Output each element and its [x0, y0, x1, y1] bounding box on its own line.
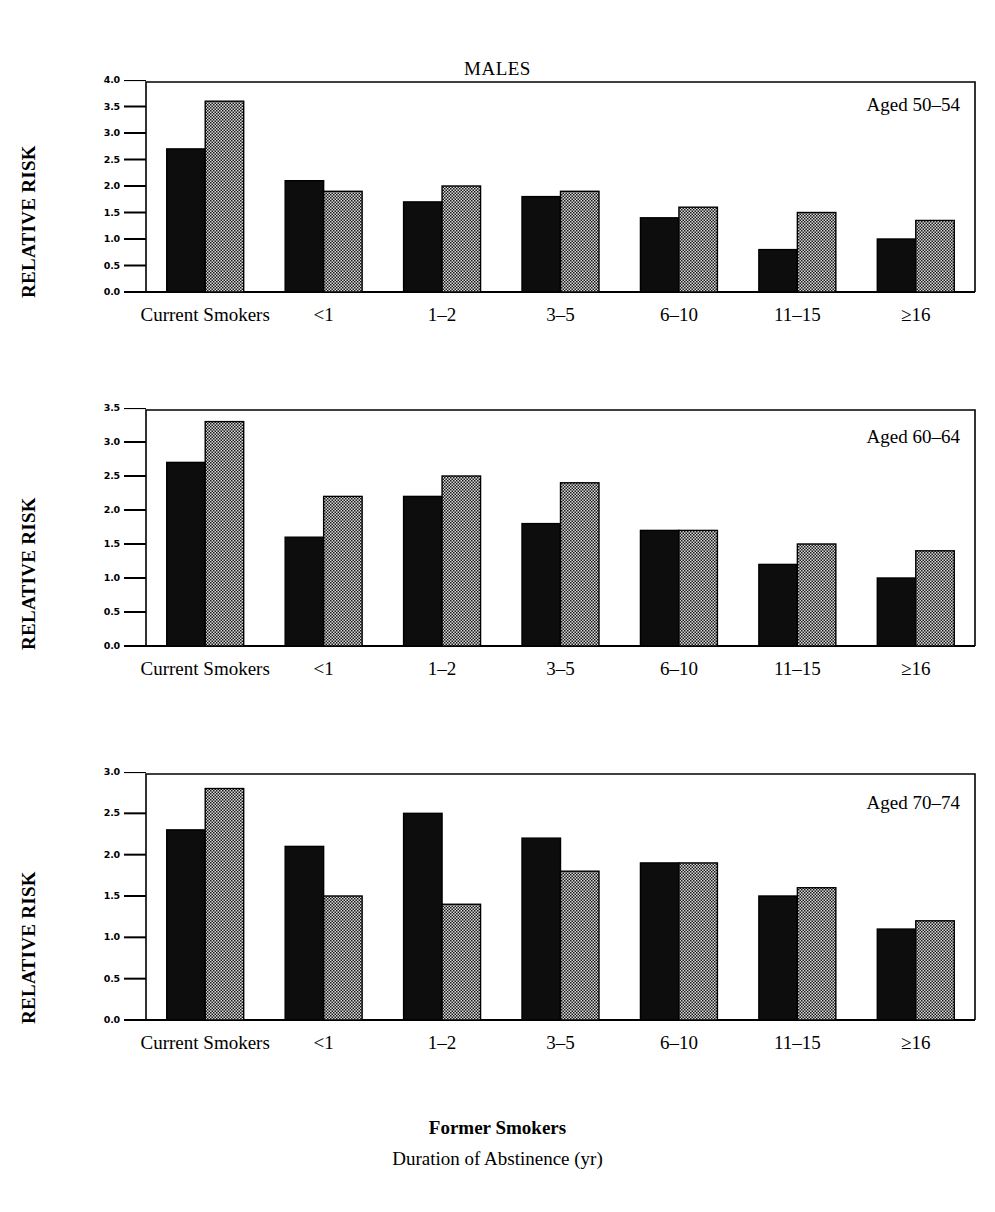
- y-axis-tick-label: 4.0: [80, 74, 120, 85]
- y-axis-tick-label: 1.0: [80, 931, 120, 942]
- bar-series-1: [640, 530, 678, 646]
- figure-page: MALES RELATIVE RISK 4.03.53.02.52.01.51.…: [0, 0, 995, 1212]
- bar-series-1: [404, 496, 442, 646]
- y-axis-tick-label: 3.0: [80, 436, 120, 447]
- bar-series-1: [877, 578, 915, 646]
- bar-series-2: [679, 207, 717, 292]
- x-axis-category-label: ≥16: [826, 658, 995, 680]
- bar-series-2: [916, 921, 954, 1020]
- y-axis-tick-label: 3.0: [80, 127, 120, 138]
- chart-svg: [0, 408, 995, 676]
- bar-series-1: [640, 863, 678, 1020]
- bar-series-2: [561, 191, 599, 292]
- panel-age-label: Aged 60–64: [800, 426, 960, 448]
- bar-series-1: [877, 239, 915, 292]
- panel-age-label: Aged 50–54: [800, 94, 960, 116]
- y-axis-tick-label: 1.5: [80, 207, 120, 218]
- y-axis-tick-label: 1.0: [80, 572, 120, 583]
- y-axis-tick-label: 3.5: [80, 101, 120, 112]
- bar-series-1: [640, 218, 678, 292]
- y-axis-tick-label: 2.5: [80, 807, 120, 818]
- bar-series-1: [759, 896, 797, 1020]
- bar-series-1: [167, 830, 205, 1020]
- y-axis-tick-label: 0.0: [80, 1014, 120, 1025]
- bar-series-2: [561, 871, 599, 1020]
- plot-area-panel-3: 3.02.52.01.51.00.50.0Current Smokers<11–…: [0, 772, 995, 1050]
- bar-series-2: [324, 896, 362, 1020]
- bar-series-1: [404, 202, 442, 292]
- chart-panel-aged-50-54: RELATIVE RISK 4.03.53.02.52.01.51.00.50.…: [0, 80, 995, 330]
- bar-series-2: [916, 551, 954, 646]
- y-axis-tick-label: 0.5: [80, 973, 120, 984]
- y-axis-tick-label: 2.5: [80, 470, 120, 481]
- plot-area-panel-2: 3.53.02.52.01.51.00.50.0Current Smokers<…: [0, 408, 995, 676]
- panel-age-label: Aged 70–74: [800, 792, 960, 814]
- y-axis-tick-label: 2.0: [80, 849, 120, 860]
- y-axis-tick-label: 3.0: [80, 766, 120, 777]
- bar-series-1: [285, 537, 323, 646]
- figure-title: MALES: [0, 58, 995, 80]
- bar-series-2: [324, 191, 362, 292]
- bar-series-2: [442, 186, 480, 292]
- bar-series-2: [916, 220, 954, 292]
- bar-series-2: [797, 544, 835, 646]
- bar-series-1: [877, 929, 915, 1020]
- x-axis-category-label: ≥16: [826, 1032, 995, 1054]
- bar-series-1: [285, 181, 323, 292]
- y-axis-tick-label: 2.0: [80, 180, 120, 191]
- y-axis-tick-label: 0.0: [80, 286, 120, 297]
- bar-series-1: [167, 149, 205, 292]
- y-axis-tick-label: 1.5: [80, 890, 120, 901]
- bar-series-1: [522, 197, 560, 292]
- x-axis-category-label: ≥16: [826, 304, 995, 326]
- x-axis-title: Duration of Abstinence (yr): [0, 1148, 995, 1170]
- y-axis-tick-label: 3.5: [80, 402, 120, 413]
- bar-series-2: [205, 101, 243, 292]
- y-axis-tick-label: 0.0: [80, 640, 120, 651]
- y-axis-tick-label: 0.5: [80, 606, 120, 617]
- y-axis-tick-label: 1.5: [80, 538, 120, 549]
- bar-series-1: [285, 846, 323, 1020]
- bar-series-2: [679, 530, 717, 646]
- bar-series-2: [205, 789, 243, 1020]
- bar-series-1: [522, 838, 560, 1020]
- y-axis-tick-label: 2.5: [80, 154, 120, 165]
- bar-series-1: [404, 813, 442, 1020]
- y-axis-tick-label: 1.0: [80, 233, 120, 244]
- x-axis-group-label: Former Smokers: [0, 1117, 995, 1139]
- y-axis-tick-label: 0.5: [80, 260, 120, 271]
- bar-series-1: [167, 462, 205, 646]
- bar-series-1: [759, 564, 797, 646]
- bar-series-2: [205, 422, 243, 646]
- bar-series-2: [442, 904, 480, 1020]
- bar-series-1: [522, 524, 560, 646]
- chart-panel-aged-60-64: RELATIVE RISK 3.53.02.52.01.51.00.50.0Cu…: [0, 408, 995, 698]
- y-axis-tick-label: 2.0: [80, 504, 120, 515]
- bar-series-2: [797, 888, 835, 1020]
- bar-series-2: [324, 496, 362, 646]
- bar-series-2: [679, 863, 717, 1020]
- bar-series-2: [442, 476, 480, 646]
- bar-series-2: [797, 213, 835, 293]
- chart-panel-aged-70-74: RELATIVE RISK 3.02.52.01.51.00.50.0Curre…: [0, 772, 995, 1072]
- plot-area-panel-1: 4.03.53.02.52.01.51.00.50.0Current Smoke…: [0, 80, 995, 322]
- bar-series-1: [759, 250, 797, 292]
- bar-series-2: [561, 483, 599, 646]
- chart-svg: [0, 80, 995, 322]
